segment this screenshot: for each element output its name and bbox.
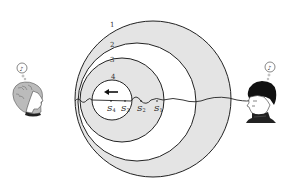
left-observer: ♪ [13,63,43,117]
wavefront-label-3: 3 [110,56,114,64]
wavefront-label-2: 2 [110,41,114,49]
right-observer: ♪ [246,62,276,123]
thought-glyph-right: ♪ [268,64,272,71]
thought-glyph-left: ♪ [20,65,24,72]
doppler-diagram: 1 2 3 4 S4 S3 S2 S1 ♪ ♪ [0,0,293,190]
wavefront-label-4: 4 [111,73,116,81]
wavefront-label-1: 1 [110,21,114,29]
